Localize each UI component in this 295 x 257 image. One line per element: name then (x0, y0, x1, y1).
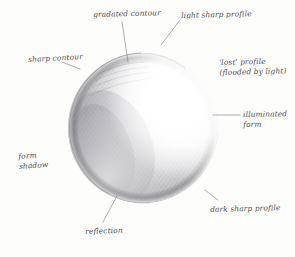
label-reflection: reflection (85, 226, 123, 237)
figure-canvas: gradated contourlight sharp profilesharp… (0, 0, 295, 257)
label-gradated-contour-line-1: gradated contour (93, 8, 161, 19)
leader-dark-sharp-profile (205, 190, 218, 200)
label-form-shadow-line-2: shadow (19, 160, 49, 172)
label-form-shadow: formshadow (18, 150, 49, 171)
label-dark-sharp-profile: dark sharp profile (210, 203, 281, 214)
label-lost-profile-line-2: (flooded by light) (219, 66, 286, 77)
sphere-body (53, 53, 218, 215)
label-illuminated-form-line-2: form (243, 119, 287, 129)
leader-reflection (103, 196, 117, 222)
leader-light-sharp-profile (161, 20, 180, 45)
label-lost-profile: 'lost' profile(flooded by light) (219, 56, 287, 77)
leader-sharp-contour (62, 62, 80, 69)
label-illuminated-form-line-1: illuminated (243, 109, 287, 119)
label-light-sharp-profile-line-1: light sharp profile (181, 9, 252, 20)
label-light-sharp-profile: light sharp profile (181, 9, 252, 20)
label-illuminated-form: illuminatedform (243, 109, 287, 129)
label-reflection-line-1: reflection (85, 226, 123, 237)
label-gradated-contour: gradated contour (93, 8, 161, 19)
label-dark-sharp-profile-line-1: dark sharp profile (210, 203, 281, 214)
